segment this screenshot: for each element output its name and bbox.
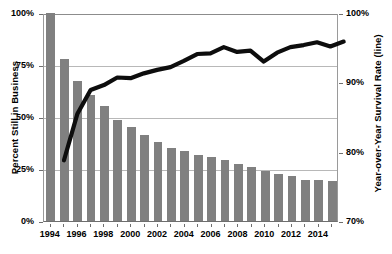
- y-axis-left-tick-label: 75%: [0, 60, 34, 70]
- y-axis-left-tick-mark: [39, 222, 43, 223]
- x-axis: 1994199619982000200220042006200820102012…: [43, 224, 338, 246]
- x-axis-tick-mark: [291, 224, 292, 227]
- y-axis-right-tick-label: 70%: [346, 216, 386, 226]
- x-axis-tick-mark: [251, 224, 252, 227]
- y-axis-right-tick-mark: [339, 14, 343, 15]
- x-axis-tick-mark: [224, 224, 225, 227]
- x-axis-tick-mark: [184, 224, 185, 227]
- x-axis-tick-mark: [211, 224, 212, 227]
- x-axis-tick-mark: [237, 224, 238, 227]
- x-axis-tick-mark: [318, 224, 319, 227]
- x-axis-tick-mark: [144, 224, 145, 227]
- x-axis-tick-mark: [77, 224, 78, 227]
- y-axis-right-tick-label: 90%: [346, 77, 386, 87]
- chart-container: Percent Still in Business Year-over-Year…: [0, 0, 392, 254]
- survival-rate-line: [64, 42, 344, 161]
- x-axis-tick-mark: [170, 224, 171, 227]
- y-axis-right-tick-mark: [339, 222, 343, 223]
- x-axis-tick-label: 2014: [298, 229, 338, 239]
- x-axis-tick-mark: [63, 224, 64, 227]
- y-axis-left-tick-label: 25%: [0, 164, 34, 174]
- y-axis-right-tick-label: 100%: [346, 8, 386, 18]
- y-axis-right-tick-mark: [339, 153, 343, 154]
- y-axis-right-tick-label: 80%: [346, 147, 386, 157]
- x-axis-tick-mark: [157, 224, 158, 227]
- x-axis-tick-mark: [90, 224, 91, 227]
- x-axis-tick-mark: [117, 224, 118, 227]
- plot-area: [43, 14, 338, 222]
- x-axis-tick-mark: [50, 224, 51, 227]
- y-axis-left-tick-label: 100%: [0, 8, 34, 18]
- x-axis-tick-mark: [130, 224, 131, 227]
- y-axis-left-tick-label: 50%: [0, 112, 34, 122]
- line-series: [44, 14, 337, 221]
- x-axis-tick-mark: [197, 224, 198, 227]
- y-axis-right-tick-mark: [339, 83, 343, 84]
- x-axis-tick-mark: [103, 224, 104, 227]
- y-axis-left-tick-label: 0%: [0, 216, 34, 226]
- x-axis-tick-mark: [278, 224, 279, 227]
- y-axis-right-title: Year-over-Year Survival Rate (line): [372, 43, 383, 193]
- x-axis-tick-mark: [331, 224, 332, 227]
- x-axis-tick-mark: [264, 224, 265, 227]
- x-axis-tick-mark: [304, 224, 305, 227]
